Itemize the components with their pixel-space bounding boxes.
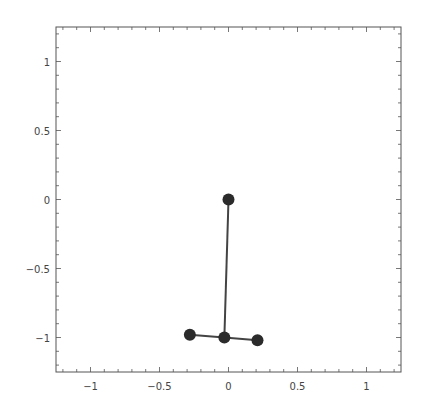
y-tick-label: 0.5: [34, 126, 50, 137]
x-tick-label: 0.5: [290, 381, 306, 392]
point-top: [223, 194, 235, 206]
x-tick-label: 1: [363, 381, 369, 392]
y-tick-label: 0: [44, 195, 50, 206]
point-center: [218, 332, 230, 344]
point-left: [184, 329, 196, 341]
y-tick-label: 1: [44, 57, 50, 68]
data-points: [184, 194, 264, 347]
point-right: [251, 334, 263, 346]
x-tick-label: 0: [225, 381, 231, 392]
link-segment: [224, 200, 228, 338]
link-segments: [190, 200, 258, 341]
y-axis-tick-labels: 10.50−0.5−1: [26, 57, 50, 344]
y-tick-label: −1: [35, 333, 50, 344]
x-axis-tick-labels: −1−0.500.51: [83, 381, 370, 392]
y-tick-label: −0.5: [26, 264, 50, 275]
x-tick-label: −1: [83, 381, 98, 392]
x-tick-label: −0.5: [147, 381, 171, 392]
pendulum-plot: −1−0.500.51 10.50−0.5−1: [0, 0, 448, 412]
